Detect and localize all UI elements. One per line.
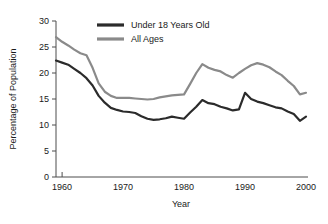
chart-legend: Under 18 Years OldAll Ages [97, 20, 210, 44]
y-axis-title: Percentage of Population [8, 48, 18, 149]
y-tick-label: 20 [39, 68, 49, 78]
y-tick-label: 30 [39, 16, 49, 26]
y-tick-label: 15 [39, 94, 49, 104]
x-tick-label: 1960 [52, 182, 72, 192]
y-tick-label: 10 [39, 120, 49, 130]
series-line [56, 37, 306, 99]
legend-label: Under 18 Years Old [131, 20, 210, 30]
y-tick-label: 25 [39, 42, 49, 52]
y-tick-label: 0 [44, 172, 49, 182]
legend-label: All Ages [131, 34, 164, 44]
x-tick-label: 2000 [296, 182, 316, 192]
y-axis-ticks: 051015202530 [39, 16, 56, 182]
x-tick-label: 1970 [113, 182, 133, 192]
y-tick-label: 5 [44, 146, 49, 156]
x-tick-label: 1990 [235, 182, 255, 192]
x-axis-title: Year [172, 199, 190, 209]
data-series-group [56, 37, 306, 121]
chart-figure: 051015202530 19601970198019902000 Under … [0, 0, 328, 224]
x-tick-label: 1980 [174, 182, 194, 192]
line-chart: 051015202530 19601970198019902000 Under … [0, 0, 328, 224]
x-axis-ticks: 19601970198019902000 [52, 172, 316, 192]
